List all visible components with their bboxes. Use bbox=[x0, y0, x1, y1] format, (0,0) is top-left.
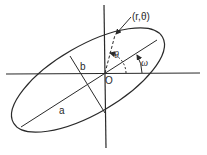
ellipse-diagram: (r,θ) θ ω O a b bbox=[0, 0, 207, 155]
minor-axis-line bbox=[70, 56, 105, 113]
point-pointer-arrow bbox=[116, 17, 131, 34]
origin-label: O bbox=[105, 75, 113, 86]
major-axis-line bbox=[21, 40, 157, 127]
semi-major-label: a bbox=[59, 105, 65, 116]
ellipse bbox=[0, 8, 179, 153]
x-axis bbox=[6, 73, 200, 74]
point-label: (r,θ) bbox=[132, 11, 150, 22]
omega-label: ω bbox=[141, 57, 148, 68]
theta-label: θ bbox=[114, 49, 119, 60]
semi-minor-label: b bbox=[80, 61, 86, 72]
